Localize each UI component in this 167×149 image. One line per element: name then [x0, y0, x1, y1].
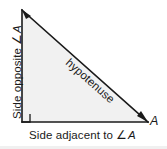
bottom-edge-band	[0, 146, 167, 149]
side-opposite-label-text: Side opposite	[11, 45, 23, 119]
angle-symbol-icon: ∠	[116, 129, 128, 141]
side-opposite-label: Side opposite ∠A	[12, 0, 24, 119]
right-triangle-diagram: Side opposite ∠A hypotenuse Side adjacen…	[0, 0, 167, 149]
vertex-a-label: A	[150, 115, 158, 128]
angle-symbol-icon: ∠	[11, 33, 23, 45]
side-adjacent-label: Side adjacent to ∠A	[29, 130, 136, 142]
side-adjacent-vertex-letter: A	[128, 129, 136, 141]
side-opposite-vertex-letter: A	[11, 25, 23, 33]
side-adjacent-label-text: Side adjacent to	[29, 129, 116, 141]
